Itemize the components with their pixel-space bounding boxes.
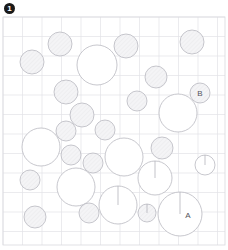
bubble-circle <box>127 91 147 111</box>
bubble-circle <box>114 34 138 58</box>
bubble-circle <box>79 203 99 223</box>
bubble <box>95 120 115 140</box>
bubble-circle <box>151 137 173 159</box>
bubble-circle <box>57 168 95 206</box>
bubble <box>57 168 95 206</box>
bubble-circle <box>20 170 40 190</box>
bubble <box>145 66 167 88</box>
bubble-circle <box>48 32 72 56</box>
bubble <box>70 103 94 127</box>
bubble <box>127 91 147 111</box>
bubble <box>105 138 143 176</box>
bubble <box>20 50 44 74</box>
bubble-circle <box>95 120 115 140</box>
bubble-circle <box>54 80 78 104</box>
bubble-circle <box>24 206 46 228</box>
bubble-circle <box>159 94 197 132</box>
bubble-circle <box>105 138 143 176</box>
bubble <box>77 45 117 85</box>
bubble-circle <box>180 30 204 54</box>
bubble: A <box>158 192 202 236</box>
bubble-label-a: A <box>185 211 191 220</box>
bubble <box>56 121 76 141</box>
bubble <box>24 206 46 228</box>
bubbles-layer: BA <box>20 30 215 236</box>
bubble <box>20 170 40 190</box>
bubble <box>138 161 172 195</box>
bubble <box>151 137 173 159</box>
bubble-circle <box>22 128 60 166</box>
bubble <box>99 186 137 224</box>
figure-panel: 1 BA <box>0 0 228 250</box>
bubble-circle <box>61 145 81 165</box>
bubble-circle <box>77 45 117 85</box>
bubble <box>48 32 72 56</box>
bubble-circle <box>56 121 76 141</box>
bubble <box>54 80 78 104</box>
bubble: B <box>190 83 210 103</box>
bubble <box>79 203 99 223</box>
bubble-circle <box>83 153 103 173</box>
bubble-circle <box>20 50 44 74</box>
bubble <box>61 145 81 165</box>
bubble-plot: BA <box>0 0 228 250</box>
bubble-circle <box>145 66 167 88</box>
bubble <box>138 204 156 222</box>
bubble <box>114 34 138 58</box>
bubble-label-b: B <box>197 89 202 98</box>
bubble <box>159 94 197 132</box>
bubble <box>83 153 103 173</box>
bubble <box>180 30 204 54</box>
bubble-circle <box>70 103 94 127</box>
bubble <box>195 155 215 175</box>
bubble <box>22 128 60 166</box>
